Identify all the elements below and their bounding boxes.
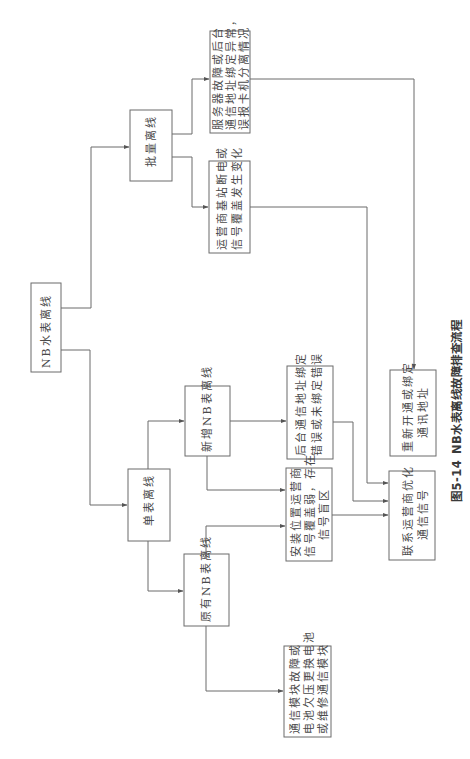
flowchart-canvas: NB水表离线 批量离线 服务器故障或后台 通信地址绑定异常， 误报卡机分离情况 … (0, 0, 470, 759)
node-label-line-3: 或维修通信模块 (316, 643, 330, 734)
node-label-line-2: 信号覆盖弱，存在 (303, 453, 317, 557)
edge-new-weak (207, 456, 285, 490)
node-module-fault: 通信模块故障或 电池欠压更换电池 或维修通信模块 (284, 630, 331, 737)
node-label-line-3: 误报卡机分离情况 (237, 26, 251, 130)
node-label-line-2: 通讯地址 (416, 386, 430, 438)
node-carrier-outage: 运营商基站断电或 信号覆盖发生变化 (209, 146, 250, 253)
node-batch-offline: 批量离线 (130, 110, 172, 181)
node-binding-error: 后台通信地址绑定 错误或未绑定错误 (287, 352, 333, 459)
node-label-line-2: 电池欠压更换电池 (302, 630, 316, 734)
node-label-line-2: 通信地址绑定异常， (224, 13, 238, 130)
edge-server-rebind (250, 79, 414, 369)
caption-title: NB水表离线故障排查流程 (450, 319, 464, 454)
node-label: NB水表离线 (39, 294, 53, 368)
node-contact-carrier: 联系运营商优化 通信信号 (389, 465, 435, 560)
figure-caption: 图5-14 NB水表离线故障排查流程 (450, 319, 464, 502)
edge-root-single (61, 350, 127, 505)
edge-binding-contact (333, 422, 388, 501)
node-label-line-3: 信号盲区 (317, 488, 331, 540)
edge-single-old (148, 541, 183, 591)
node-label-line-1: 后台通信地址绑定 (294, 352, 308, 456)
edge-single-new (148, 421, 184, 469)
node-label-line-1: 通信模块故障或 (288, 643, 302, 734)
node-label-line-1: 安装位置运营商 (289, 466, 303, 557)
node-label-line-2: 通信信号 (417, 488, 430, 540)
edge-old-module (206, 626, 283, 691)
node-label-line-1: 服务器故障或后台 (211, 26, 225, 130)
node-label: 单表离线 (142, 474, 156, 526)
node-label: 批量离线 (144, 115, 158, 167)
node-label-line-1: 联系运营商优化 (401, 465, 415, 556)
node-label-line-1: 重新开通或绑定 (401, 361, 415, 452)
node-label-line-2: 信号覆盖发生变化 (230, 146, 244, 250)
node-weak-signal: 安装位置运营商 信号覆盖弱，存在 信号盲区 (286, 453, 332, 561)
node-single-offline: 单表离线 (128, 469, 170, 541)
node-label: 原有NB表离线 (199, 535, 213, 622)
node-new-meter-offline: 新增NB表离线 (185, 365, 230, 456)
edge-batch-server (172, 79, 209, 134)
node-old-meter-offline: 原有NB表离线 (184, 535, 229, 626)
edge-old-weak (206, 526, 285, 554)
node-label-line-1: 运营商基站断电或 (215, 146, 229, 250)
caption-number: 图5-14 (450, 460, 464, 502)
node-server-fault: 服务器故障或后台 通信地址绑定异常， 误报卡机分离情况 (210, 13, 251, 133)
node-label: 新增NB表离线 (200, 365, 214, 452)
node-label-line-2: 错误或未绑定错误 (310, 352, 324, 456)
edge-batch-carrier (172, 157, 208, 207)
edge-root-batch (61, 147, 129, 308)
node-nb-meter-offline: NB水表离线 (31, 283, 61, 372)
node-rebind-address: 重新开通或绑定 通讯地址 (390, 361, 436, 456)
